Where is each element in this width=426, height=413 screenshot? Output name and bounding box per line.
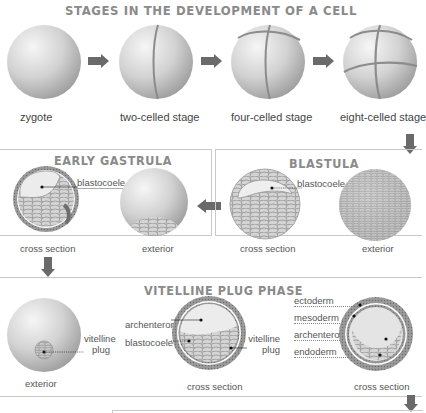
two-celled-illustration [118,24,194,100]
vitelline-plug-label-line1: vitelline [246,333,280,344]
main-title: STAGES IN THE DEVELOPMENT OF A CELL [0,3,422,18]
four-celled-illustration [230,24,306,100]
arrow-down-icon [41,257,55,277]
vitelline-plug-label-line1: vitelline [84,333,110,344]
early-gastrula-cross-section-illustration [10,165,82,233]
arrow-right-icon [313,54,335,68]
blastula-cross-section-illustration [228,168,302,240]
early-gastrula-caption-exterior: exterior [142,243,174,254]
vitelline-plug-label: vitelline plug [246,333,280,355]
arrow-right-icon [201,54,223,68]
layered-cross-section-illustration [338,296,414,372]
zygote-illustration [6,24,82,100]
blastula-caption-exterior: exterior [362,243,394,254]
blastula-exterior-illustration [338,168,412,242]
vitelline-caption-cross-section-2: cross section [354,381,409,392]
vitelline-plug-label-line2: plug [84,344,110,355]
vitelline-caption-cross-section-1: cross section [187,381,242,392]
vitelline-plug-label: vitelline plug [84,333,110,355]
arrow-right-icon [88,54,110,68]
blastula-caption-cross-section: cross section [240,243,295,254]
stage-label-two-celled: two-celled stage [120,111,200,123]
eight-celled-illustration [342,24,418,100]
stage-label-eight-celled: eight-celled stage [340,111,426,123]
vitelline-plug-label-line2: plug [246,344,280,355]
vitelline-caption-exterior: exterior [25,378,57,389]
blastocoele-label: blastocoele [125,337,173,348]
vitelline-exterior-illustration [6,297,84,373]
stage-label-zygote: zygote [20,111,52,123]
early-gastrula-exterior-illustration [117,167,191,237]
stage-label-four-celled: four-celled stage [231,111,312,123]
early-gastrula-caption-cross-section: cross section [20,243,75,254]
vitelline-cross-section-illustration [171,295,247,371]
archenteron-label: archenteron [125,319,176,330]
